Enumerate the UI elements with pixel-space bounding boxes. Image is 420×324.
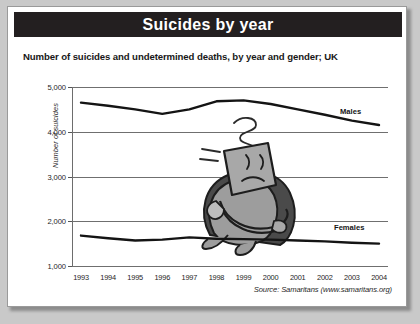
title-bar: Suicides by year bbox=[14, 12, 402, 37]
x-tick-label: 2002 bbox=[317, 273, 333, 282]
page-title: Suicides by year bbox=[142, 17, 273, 33]
gridline bbox=[72, 266, 388, 267]
x-tick-label: 1996 bbox=[154, 273, 170, 282]
y-tick-label: 3,000 bbox=[47, 172, 66, 181]
y-tick-label: 4,000 bbox=[47, 127, 66, 136]
series-label-males: Males bbox=[340, 107, 361, 116]
source-attribution: Source: Samaritans (www.samaritans.org) bbox=[254, 285, 392, 294]
x-tick-label: 1993 bbox=[73, 273, 89, 282]
y-tick-label: 5,000 bbox=[47, 83, 66, 92]
x-tick-label: 2004 bbox=[371, 273, 387, 282]
line-chart: Number of suicides 5,0004,0003,0002,0001… bbox=[20, 75, 400, 280]
x-tick-label: 1997 bbox=[182, 273, 198, 282]
x-tick-label: 1999 bbox=[236, 273, 252, 282]
plot-area: 5,0004,0003,0002,0001,000 19931994199519… bbox=[72, 87, 388, 266]
chart-subtitle: Number of suicides and undetermined deat… bbox=[23, 51, 398, 62]
y-tick-label: 2,000 bbox=[47, 217, 66, 226]
x-tick-label: 2000 bbox=[263, 273, 279, 282]
y-tick-mark bbox=[68, 266, 72, 267]
series-line-males bbox=[81, 100, 379, 125]
screenshot-root: Suicides by year Number of suicides and … bbox=[0, 0, 420, 324]
x-tick-label: 1998 bbox=[209, 273, 225, 282]
series-line-females bbox=[81, 236, 379, 244]
x-tick-label: 1995 bbox=[127, 273, 143, 282]
infographic-card: Suicides by year Number of suicides and … bbox=[7, 6, 407, 307]
x-tick-label: 2001 bbox=[290, 273, 306, 282]
x-tick-label: 2003 bbox=[344, 273, 360, 282]
x-tick-label: 1994 bbox=[100, 273, 116, 282]
series-label-females: Females bbox=[334, 223, 364, 232]
y-tick-label: 1,000 bbox=[47, 262, 66, 271]
